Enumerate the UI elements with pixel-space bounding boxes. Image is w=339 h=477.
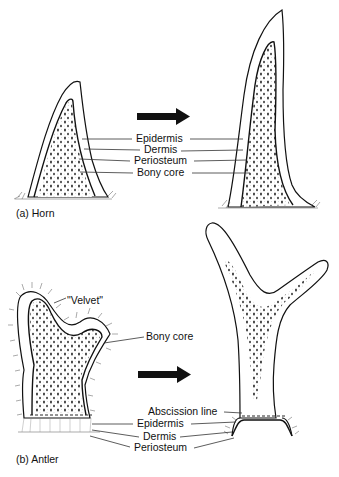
right-arrow-icon [137,108,190,125]
label-periosteum: Periosteum [134,154,187,166]
large-horn [218,10,320,208]
caption-antler: (b) Antler [16,453,59,465]
mature-antler [206,223,328,436]
small-horn [14,81,116,199]
label-abscission-line: Abscission line [148,405,218,417]
label-periosteum-antler: Periosteum [134,441,187,453]
label-velvet: "Velvet" [67,294,103,306]
label-bony-core-antler: Bony core [146,330,193,342]
horn-antler-diagram: Epidermis Dermis Periosteum Bony core (a… [0,0,339,477]
caption-horn: (a) Horn [16,207,55,219]
horn-labels: Epidermis Dermis Periosteum Bony core [79,132,250,178]
right-arrow-icon [138,366,191,383]
label-epidermis-antler: Epidermis [137,417,184,429]
label-bony-core: Bony core [137,166,184,178]
